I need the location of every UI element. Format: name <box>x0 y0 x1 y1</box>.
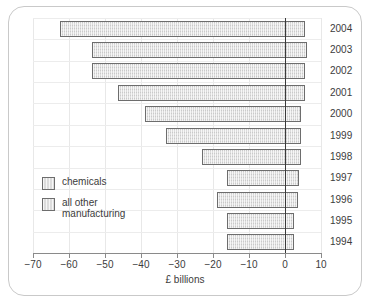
x-tick <box>213 253 214 258</box>
x-tick-label: −20 <box>205 259 222 270</box>
gridline-horizontal <box>33 103 321 104</box>
x-tick-label: −40 <box>133 259 150 270</box>
gridline-horizontal <box>33 82 321 83</box>
x-tick-label: −30 <box>169 259 186 270</box>
bar-1994 <box>227 234 294 250</box>
x-tick <box>141 253 142 258</box>
year-label-2002: 2002 <box>330 65 352 76</box>
x-tick <box>249 253 250 258</box>
x-tick <box>33 253 34 258</box>
bar-2002 <box>92 63 304 79</box>
year-label-2001: 2001 <box>330 87 352 98</box>
x-tick-label: 0 <box>282 259 288 270</box>
gridline-horizontal <box>33 18 321 19</box>
year-label-1999: 1999 <box>330 130 352 141</box>
bar-1998 <box>202 149 301 165</box>
year-label-2000: 2000 <box>330 108 352 119</box>
gridline-horizontal <box>33 232 321 233</box>
bar-1999 <box>166 128 301 144</box>
year-label-2003: 2003 <box>330 44 352 55</box>
x-tick <box>69 253 70 258</box>
x-tick-label: −50 <box>97 259 114 270</box>
legend-swatch-chemicals <box>42 177 55 190</box>
chart-figure: −70−60−50−40−30−20−10010 £ billions 2004… <box>0 0 370 303</box>
gridline-vertical <box>321 18 322 253</box>
legend-item-chemicals: chemicals <box>42 176 125 190</box>
legend-swatch-all-other-manufacturing <box>42 198 55 211</box>
bar-2004 <box>60 21 305 37</box>
bar-2001 <box>118 85 305 101</box>
legend-item-all-other-manufacturing: all other manufacturing <box>42 197 125 219</box>
gridline-horizontal <box>33 125 321 126</box>
x-tick <box>285 253 286 258</box>
year-label-1996: 1996 <box>330 194 352 205</box>
x-tick-label: −70 <box>25 259 42 270</box>
gridline-horizontal <box>33 146 321 147</box>
x-tick-label: −60 <box>61 259 78 270</box>
x-axis-title: £ billions <box>0 274 370 285</box>
x-tick-label: −10 <box>241 259 258 270</box>
year-label-2004: 2004 <box>330 23 352 34</box>
year-label-1997: 1997 <box>330 172 352 183</box>
gridline-horizontal <box>33 61 321 62</box>
x-tick-label: 10 <box>315 259 326 270</box>
legend-label-all-other-manufacturing: all other manufacturing <box>62 197 125 219</box>
bar-1997 <box>227 170 299 186</box>
x-tick <box>105 253 106 258</box>
bar-1995 <box>227 213 294 229</box>
year-label-1994: 1994 <box>330 236 352 247</box>
year-label-1995: 1995 <box>330 215 352 226</box>
x-tick <box>177 253 178 258</box>
gridline-horizontal <box>33 39 321 40</box>
bar-2003 <box>92 42 306 58</box>
zero-reference-line <box>285 18 286 253</box>
x-tick <box>321 253 322 258</box>
bar-2000 <box>145 106 302 122</box>
chart-legend: chemicals all other manufacturing <box>42 176 125 226</box>
gridline-vertical <box>33 18 34 253</box>
legend-label-chemicals: chemicals <box>62 176 106 187</box>
year-label-1998: 1998 <box>330 151 352 162</box>
gridline-horizontal <box>33 168 321 169</box>
